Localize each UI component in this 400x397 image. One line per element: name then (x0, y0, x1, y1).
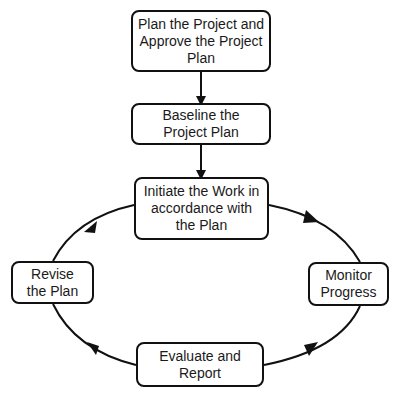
arrowhead-evaluate-to-revise (87, 342, 99, 355)
node-monitor-progress: Monitor Progress (308, 262, 389, 306)
node-initiate-work: Initiate the Work in accordance with the… (134, 177, 269, 240)
node-evaluate-report: Evaluate and Report (136, 342, 264, 387)
arc-evaluate-to-revise (53, 304, 136, 365)
arc-monitor-to-evaluate (264, 306, 360, 365)
arc-initiate-to-monitor (269, 205, 360, 262)
arc-revise-to-initiate (53, 205, 134, 261)
node-revise-plan: Revise the Plan (11, 261, 94, 304)
node-plan-project: Plan the Project and Approve the Project… (131, 10, 271, 72)
node-baseline-plan: Baseline the Project Plan (131, 103, 271, 145)
arrowhead-initiate-to-monitor (303, 210, 319, 223)
arrowhead-revise-to-initiate (84, 221, 97, 233)
